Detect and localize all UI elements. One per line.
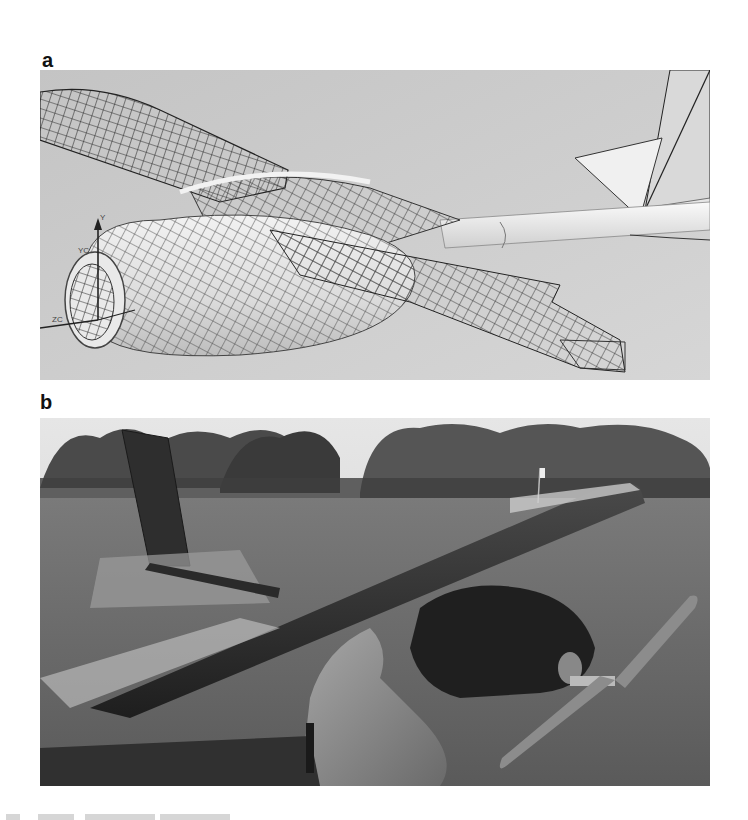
figure-caption-truncated — [0, 808, 748, 820]
caption-fragment — [38, 814, 74, 820]
caption-fragment — [85, 814, 155, 820]
panel-label-b: b — [40, 392, 52, 412]
cad-render-panel: Y YC ZC — [40, 70, 710, 380]
prototype-photo-panel — [40, 418, 710, 786]
axis-label-yc: YC — [78, 246, 89, 255]
uav-prototype-photo — [40, 418, 710, 786]
panel-label-a: a — [42, 50, 53, 70]
caption-fragment — [6, 814, 20, 820]
axis-label-y: Y — [100, 213, 106, 222]
axis-label-zc: ZC — [52, 315, 63, 324]
cad-uav-illustration: Y YC ZC — [40, 70, 710, 380]
caption-fragment — [160, 814, 230, 820]
